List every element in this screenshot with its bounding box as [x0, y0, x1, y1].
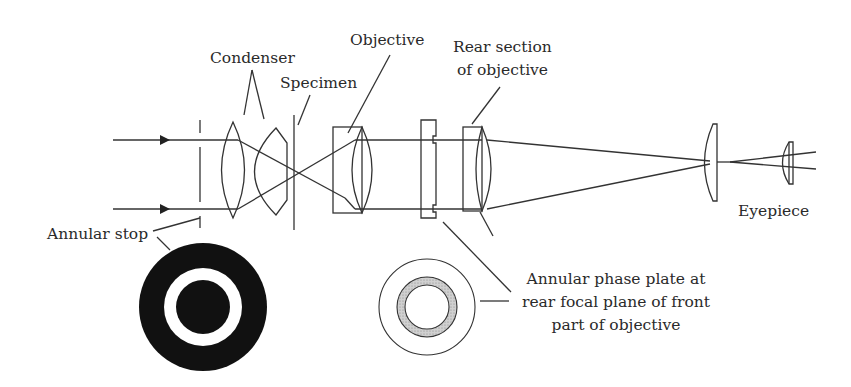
condenser-label: Condenser — [210, 49, 295, 67]
eyepiece-lens-1 — [705, 124, 718, 201]
arrow-icon — [160, 204, 170, 214]
rear-section-label-1: Rear section — [453, 38, 552, 56]
converging-rays — [487, 140, 816, 209]
arrow-icon — [160, 135, 170, 145]
phase-plate-label-3: part of objective — [552, 316, 681, 334]
annular-phase-plate-disk — [379, 259, 475, 355]
phase-plate-label-2: rear focal plane of front — [522, 293, 711, 311]
annular-stop-label: Annular stop — [46, 225, 148, 243]
incoming-rays — [113, 135, 238, 214]
annular-stop-disk — [139, 243, 267, 371]
eyepiece-label: Eyepiece — [738, 202, 809, 220]
phase-plate-label-1: Annular phase plate at — [526, 270, 707, 288]
phase-contrast-diagram: Condenser Specimen Objective Rear sectio… — [0, 0, 851, 387]
specimen-label: Specimen — [280, 74, 357, 92]
rear-section-label-2: of objective — [457, 61, 548, 79]
objective-label: Objective — [350, 31, 424, 49]
condenser-lens-2 — [255, 128, 288, 215]
phase-plate — [421, 120, 436, 218]
condenser-lens-1 — [222, 122, 245, 218]
eyepiece-lens-2 — [783, 142, 794, 184]
